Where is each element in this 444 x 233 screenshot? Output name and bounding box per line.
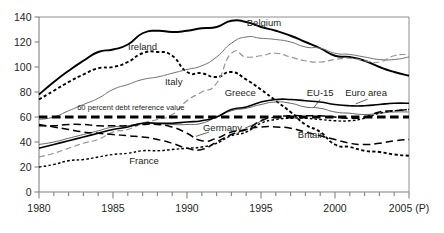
debt-to-gdp-line-chart: 020406080100120140 198019851990199520002…: [0, 0, 444, 233]
x-axis-tick-label: 1980: [27, 202, 51, 214]
annotation-label-italy: Italy: [165, 76, 183, 87]
y-axis-tick-label: 100: [14, 61, 32, 73]
y-axis-tick-label: 20: [20, 161, 32, 173]
annotation-label-60-percent-debt-reference-value: 60 percent debt reference value: [77, 103, 184, 112]
x-axis-tick-label: 1995: [249, 202, 273, 214]
annotation-label-eu-15: EU-15: [307, 87, 334, 98]
chart-container: 020406080100120140 198019851990199520002…: [0, 0, 444, 233]
annotation-label-ireland: Ireland: [128, 41, 157, 52]
annotation-label-france: France: [129, 155, 159, 166]
x-axis-tick-label: 2005 (P): [389, 202, 429, 214]
annotation-label-euro-area: Euro area: [345, 87, 387, 98]
x-axis-tick-label: 1990: [175, 202, 199, 214]
annotation-label-belgium: Belgium: [247, 17, 281, 28]
x-axis-tick-label: 2000: [323, 202, 347, 214]
annotation-label-greece: Greece: [225, 87, 256, 98]
y-axis-tick-label: 0: [26, 186, 32, 198]
y-axis-tick-label: 60: [20, 111, 32, 123]
annotation-label-germany: Germany: [203, 122, 242, 133]
annotation-label-britain: Britain: [298, 129, 325, 140]
y-axis-tick-label: 40: [20, 136, 32, 148]
y-axis-tick-label: 140: [14, 11, 32, 23]
y-axis-tick-label: 80: [20, 86, 32, 98]
x-axis-tick-label: 1985: [101, 202, 125, 214]
y-axis-tick-label: 120: [14, 36, 32, 48]
